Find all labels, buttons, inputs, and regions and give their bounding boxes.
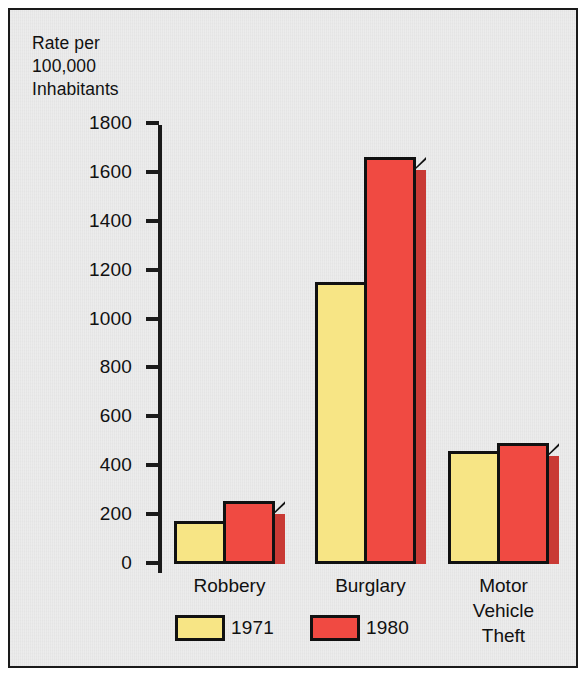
category-label: Burglary xyxy=(293,573,448,598)
bar-1980-robbery xyxy=(223,501,275,564)
legend-item-1971: 1971 xyxy=(175,615,274,641)
bar-1980-motor-vehicle-theft xyxy=(497,443,549,564)
y-tick-label: 600 xyxy=(10,405,138,427)
legend-swatch xyxy=(310,615,360,641)
y-tick-label: 0 xyxy=(10,552,138,574)
bar-group xyxy=(315,10,426,564)
bar-1971-robbery xyxy=(174,521,226,564)
y-axis-line xyxy=(158,125,162,573)
legend-item-1980: 1980 xyxy=(310,615,409,641)
y-tick-label: 1600 xyxy=(10,161,138,183)
y-tick-label: 1200 xyxy=(10,259,138,281)
y-tick-label: 200 xyxy=(10,503,138,525)
legend-swatch xyxy=(175,615,225,641)
legend-label: 1971 xyxy=(231,617,274,639)
y-tick-label: 1800 xyxy=(10,112,138,134)
chart-frame: Rate per 100,000 Inhabitants 02004006008… xyxy=(8,8,578,668)
y-tick-label: 800 xyxy=(10,356,138,378)
bar-group xyxy=(174,10,285,564)
bar-group xyxy=(448,10,559,564)
category-label: Motor Vehicle Theft xyxy=(426,573,578,648)
bar-1980-burglary xyxy=(364,157,416,564)
y-axis-tick-labels: 020040060080010001200140016001800 xyxy=(10,10,138,666)
y-tick-label: 1400 xyxy=(10,210,138,232)
legend-label: 1980 xyxy=(366,617,409,639)
y-tick-label: 1000 xyxy=(10,308,138,330)
category-label: Robbery xyxy=(152,573,307,598)
bar-1971-motor-vehicle-theft xyxy=(448,451,500,564)
bar-1971-burglary xyxy=(315,282,367,564)
y-tick-label: 400 xyxy=(10,454,138,476)
